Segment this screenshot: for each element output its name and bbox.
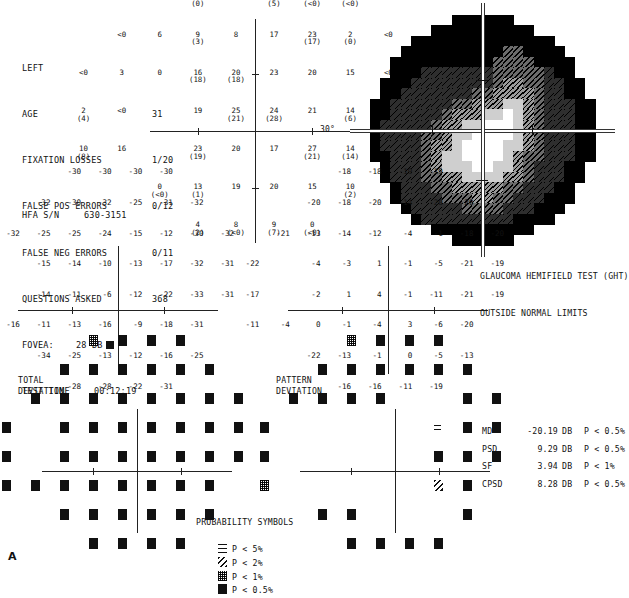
grayscale-cell	[493, 25, 504, 36]
total-deviation-value: -11	[33, 321, 51, 329]
index-probability: P < 0.5%	[584, 441, 625, 459]
grayscale-cell	[523, 193, 534, 204]
grayscale-cell	[523, 46, 534, 57]
grayscale-cell	[534, 193, 545, 204]
grayscale-cell	[380, 88, 391, 99]
pattern-deviation-value: -11	[425, 291, 443, 299]
axis-tick	[181, 468, 182, 475]
grayscale-cell	[452, 140, 463, 151]
threshold-value: 20	[223, 145, 249, 153]
total-deviation-value: -16	[2, 321, 20, 329]
pattern-deviation-value: -6	[425, 321, 443, 329]
pattern-deviation-value: -5	[425, 260, 443, 268]
pattern-deviation-value: -1	[425, 230, 443, 238]
total-deviation-value: -25	[124, 199, 142, 207]
pattern-deviation-value: -4	[394, 230, 412, 238]
pattern-deviation-value: -4	[303, 260, 321, 268]
grayscale-cell	[544, 78, 555, 89]
threshold-point: 2(4)	[71, 107, 97, 122]
threshold-value: 17	[261, 31, 287, 39]
grayscale-cell	[452, 151, 463, 162]
threshold-retest-value: (<0)	[299, 0, 325, 8]
total-deviation-value: -31	[186, 321, 204, 329]
total-deviation-value: -28	[94, 383, 112, 391]
grayscale-cell	[462, 140, 473, 151]
td-prob-symbol-p05	[89, 422, 98, 433]
grayscale-cell	[564, 57, 575, 68]
vertical-axis	[137, 409, 138, 533]
grayscale-cell	[390, 109, 401, 120]
legend-item: P < 5%	[196, 543, 293, 557]
grayscale-cell	[442, 99, 453, 110]
grayscale-cell	[513, 182, 524, 193]
total-deviation-value: -34	[33, 352, 51, 360]
axis-tick	[312, 128, 313, 135]
total-deviation-value: -32	[186, 260, 204, 268]
grayscale-cell	[544, 99, 555, 110]
index-unit: DB	[558, 423, 584, 441]
grayscale-cell	[585, 140, 596, 151]
pattern-deviation-value: -16	[333, 383, 351, 391]
grayscale-cell	[390, 78, 401, 89]
grayscale-cell	[585, 99, 596, 110]
pd-prob-symbol-p05	[376, 335, 385, 346]
pd-prob-symbol-p2	[434, 480, 443, 491]
grayscale-cell	[462, 78, 473, 89]
axis-tick	[164, 307, 165, 314]
td-prob-symbol-p05	[118, 480, 127, 491]
grayscale-cell	[503, 193, 514, 204]
total-deviation-title: TOTAL DEVIATION	[18, 375, 64, 397]
grayscale-cell	[390, 57, 401, 68]
threshold-point: 9(3)	[185, 31, 211, 46]
pattern-deviation-value: -20	[303, 199, 321, 207]
total-deviation-value: -17	[155, 260, 173, 268]
grayscale-cell	[503, 36, 514, 47]
grayscale-cell	[452, 99, 463, 110]
grayscale-cell	[534, 99, 545, 110]
total-deviation-value: -25	[63, 230, 81, 238]
grayscale-cell	[493, 172, 504, 183]
grayscale-cell	[390, 67, 401, 78]
pattern-deviation-value: 0	[394, 352, 412, 360]
td-prob-symbol-p05	[205, 364, 214, 375]
pd-prob-symbol-p05	[434, 538, 443, 549]
grayscale-cell	[575, 161, 586, 172]
grayscale-cell	[411, 203, 422, 214]
grayscale-cell	[411, 182, 422, 193]
grayscale-cell	[380, 140, 391, 151]
pd-prob-symbol-p05	[260, 422, 269, 433]
grayscale-cell	[442, 25, 453, 36]
axis-tick	[198, 128, 199, 135]
grayscale-cell	[452, 15, 463, 26]
grayscale-cell	[462, 67, 473, 78]
pattern-deviation-value: -19	[425, 168, 443, 176]
grayscale-cell	[452, 161, 463, 172]
grayscale-cell	[390, 140, 401, 151]
grayscale-axis-tick	[476, 180, 488, 181]
grayscale-cell	[575, 172, 586, 183]
threshold-value: <0	[109, 107, 135, 115]
pattern-deviation-value: 3	[394, 321, 412, 329]
pattern-deviation-value: -22	[303, 352, 321, 360]
grayscale-cell	[442, 109, 453, 120]
grayscale-cell	[554, 172, 565, 183]
total-deviation-value: -18	[155, 321, 173, 329]
grayscale-cell	[564, 151, 575, 162]
grayscale-cell	[421, 151, 432, 162]
threshold-point: 15	[337, 69, 363, 77]
pd-prob-symbol-p05	[376, 393, 385, 404]
threshold-retest-value: (6)	[337, 115, 363, 123]
threshold-value: 8	[223, 31, 249, 39]
td-prob-symbol-p05	[205, 422, 214, 433]
grayscale-cell	[534, 140, 545, 151]
grayscale-cell	[534, 214, 545, 225]
td-prob-symbol-p05	[89, 509, 98, 520]
grayscale-cell	[554, 99, 565, 110]
td-prob-symbol-p05	[176, 451, 185, 462]
pattern-deviation-value: -1	[333, 321, 351, 329]
threshold-point: 20	[261, 183, 287, 191]
pattern-deviation-value: 1	[333, 291, 351, 299]
pd-prob-symbol-p05	[318, 364, 327, 375]
total-deviation-value: -14	[63, 260, 81, 268]
total-deviation-value: -31	[155, 199, 173, 207]
